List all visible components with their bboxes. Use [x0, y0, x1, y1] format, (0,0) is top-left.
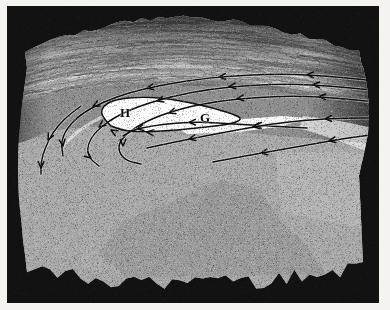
vortex-streamline-plate: [7, 6, 379, 303]
photographic-plate: H G: [7, 6, 379, 303]
figure-root: H G: [0, 0, 390, 310]
